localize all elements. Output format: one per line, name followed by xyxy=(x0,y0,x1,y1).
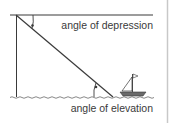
elevation-arc xyxy=(94,83,96,97)
depression-label: angle of depression xyxy=(61,19,153,31)
water-line xyxy=(10,97,154,99)
depression-arrow-icon xyxy=(31,24,34,27)
angle-diagram: angle of depression angle of elevation xyxy=(0,0,173,123)
elevation-arrow-icon xyxy=(95,86,98,89)
elevation-label: angle of elevation xyxy=(71,102,153,114)
sailboat-icon xyxy=(120,74,146,96)
